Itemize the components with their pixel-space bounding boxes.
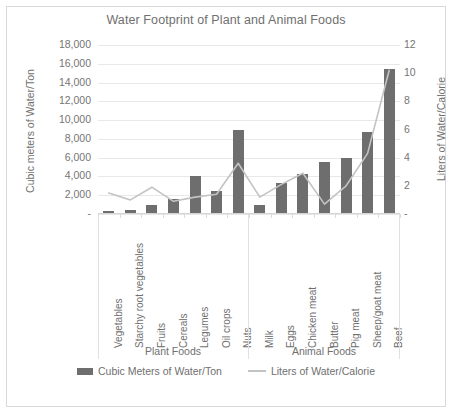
y-axis-left-tick-label: 10,000 [43,113,91,125]
group-label-plant-foods: Plant Foods [98,345,248,357]
chart-title: Water Footprint of Plant and Animal Food… [7,13,445,27]
y-axis-left-tick-label: 4,000 [43,169,91,181]
line-series [98,45,400,214]
y-axis-right-tick-label: - [404,207,434,219]
y-axis-right-tick-label: 6 [404,123,434,135]
x-axis-tick-mark [400,214,401,218]
y-axis-left-tick-label: 18,000 [43,38,91,50]
y-axis-left-tick-label: - [43,207,91,219]
y-axis-right-tick-label: 8 [404,94,434,106]
group-label-animal-foods: Animal Foods [249,345,399,357]
y-axis-left-tick-label: 12,000 [43,94,91,106]
y-axis-right-tick-label: 4 [404,151,434,163]
y-axis-right-title: Liters of Water/Calorie [435,54,447,204]
group-separator [399,214,400,359]
group-separator [98,214,99,359]
legend-item-line[interactable]: Liters of Water/Calorie [248,365,375,377]
y-axis-right-tick-label: 2 [404,179,434,191]
legend-line-label: Liters of Water/Calorie [271,365,375,377]
y-axis-left-tick-label: 6,000 [43,151,91,163]
y-axis-left-title: Cubic meters of Water/Ton [24,51,36,211]
group-band: Plant Foods Animal Foods [98,214,400,359]
plot-area [98,45,400,214]
y-axis-left-tick-label: 8,000 [43,132,91,144]
y-axis-right-tick-label: 10 [404,66,434,78]
y-axis-left-tick-label: 14,000 [43,76,91,88]
legend-item-bar[interactable]: Cubic Meters of Water/Ton [77,365,222,377]
chart-legend: Cubic Meters of Water/Ton Liters of Wate… [7,365,445,377]
group-separator [248,214,249,359]
legend-line-swatch-icon [248,370,266,372]
y-axis-right-tick-label: 12 [404,38,434,50]
y-axis-left-tick-label: 16,000 [43,57,91,69]
legend-bar-label: Cubic Meters of Water/Ton [98,365,222,377]
legend-bar-swatch-icon [77,368,93,375]
y-axis-left-tick-label: 2,000 [43,188,91,200]
chart-container: Water Footprint of Plant and Animal Food… [6,6,446,407]
